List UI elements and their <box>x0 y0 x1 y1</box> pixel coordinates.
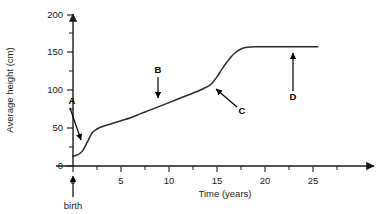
annotation-c: C <box>216 89 246 116</box>
y-tick-label-150: 150 <box>47 46 63 57</box>
y-axis-major-ticks <box>67 15 73 166</box>
x-tick-label-5: 5 <box>118 175 123 186</box>
birth-marker: birth <box>64 176 82 211</box>
x-tick-label-10: 10 <box>164 175 175 186</box>
annotation-b-label: B <box>155 64 162 75</box>
annotation-d-label: D <box>290 91 297 102</box>
x-axis-title: Time (years) <box>199 188 252 199</box>
annotation-a-arrow <box>70 108 81 140</box>
annotation-a-label: A <box>69 95 76 106</box>
annotation-a: A <box>69 95 81 140</box>
x-tick-label-20: 20 <box>260 175 271 186</box>
y-tick-label-0: 0 <box>58 160 63 171</box>
birth-label: birth <box>64 200 82 211</box>
x-tick-label-15: 15 <box>212 175 223 186</box>
annotation-c-arrow <box>216 89 237 107</box>
growth-chart-figure: 0 50 100 150 200 0 5 10 15 20 25 Average… <box>0 0 388 214</box>
chart-canvas: 0 50 100 150 200 0 5 10 15 20 25 Average… <box>0 0 388 214</box>
annotation-b: B <box>155 64 162 98</box>
x-tick-label-25: 25 <box>308 175 319 186</box>
y-tick-label-100: 100 <box>47 84 63 95</box>
annotation-c-label: C <box>239 105 246 116</box>
y-tick-label-50: 50 <box>52 122 63 133</box>
y-axis-title: Average height (cm) <box>4 47 15 132</box>
y-tick-label-200: 200 <box>47 9 63 20</box>
growth-curve <box>73 47 318 157</box>
annotation-d: D <box>290 53 297 102</box>
